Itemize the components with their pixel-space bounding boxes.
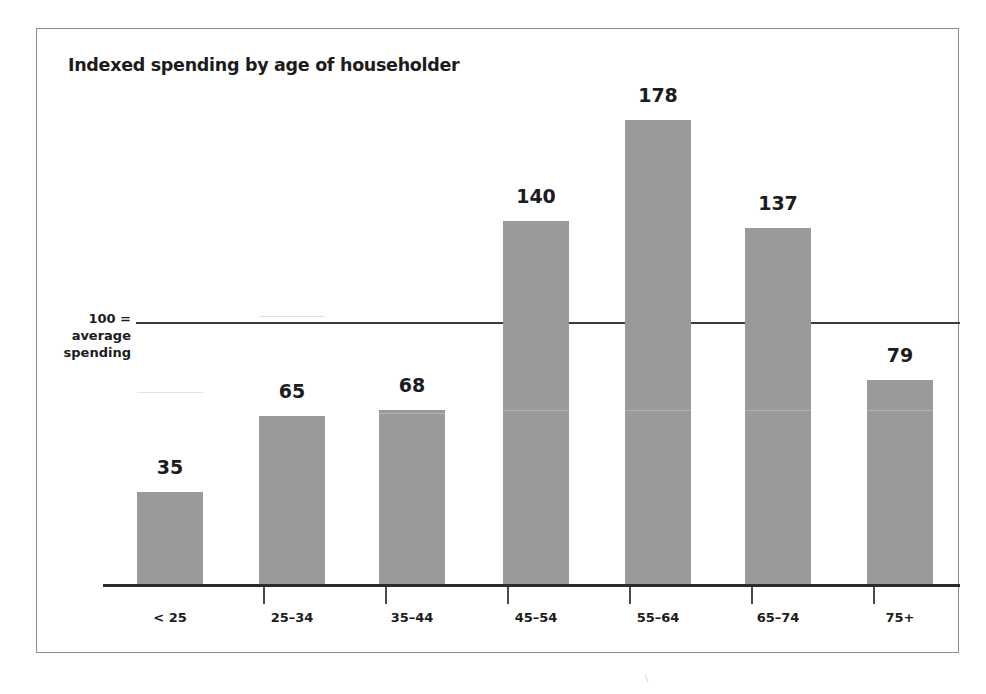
- bar-value-label: 79: [850, 344, 950, 366]
- axis-tick: [263, 587, 265, 604]
- reference-line-label: 100 = average spending: [45, 310, 131, 361]
- bar-seam: [503, 410, 569, 411]
- bar-seam: [867, 410, 933, 411]
- bar[interactable]: [137, 492, 203, 584]
- x-axis-tick-label: < 25: [110, 610, 230, 625]
- bar-value-label: 68: [362, 374, 462, 396]
- chart-figure: Indexed spending by age of householder 1…: [36, 28, 959, 653]
- x-axis-line: [103, 584, 960, 587]
- bar-value-label: 178: [608, 84, 708, 106]
- axis-tick: [751, 587, 753, 604]
- bar[interactable]: [379, 410, 445, 584]
- bar-seam: [745, 410, 811, 411]
- page-scan-artifact: \: [645, 672, 648, 684]
- bar[interactable]: [625, 120, 691, 584]
- axis-tick: [873, 587, 875, 604]
- plot-area: 100 = average spending 35 65 68 140: [37, 29, 960, 654]
- bar-seam: [625, 410, 691, 411]
- bar[interactable]: [867, 380, 933, 584]
- bar-value-label: 137: [728, 192, 828, 214]
- x-axis-tick-label: 25–34: [232, 610, 352, 625]
- x-axis-tick-label: 45–54: [476, 610, 596, 625]
- reference-label-line-3: spending: [45, 344, 131, 361]
- x-axis-tick-label: 55–64: [598, 610, 718, 625]
- axis-tick: [507, 587, 509, 604]
- x-axis-tick-label: 75+: [840, 610, 960, 625]
- x-axis-tick-label: 35–44: [352, 610, 472, 625]
- bar-value-label: 35: [120, 456, 220, 478]
- axis-tick: [385, 587, 387, 604]
- axis-tick: [629, 587, 631, 604]
- x-axis-tick-label: 65–74: [718, 610, 838, 625]
- bar[interactable]: [259, 416, 325, 584]
- reference-label-line-2: average: [45, 327, 131, 344]
- bar-value-label: 140: [486, 185, 586, 207]
- reference-label-line-1: 100 =: [45, 310, 131, 327]
- bar[interactable]: [745, 228, 811, 584]
- bar-seam: [379, 413, 445, 414]
- bar-seam: [259, 316, 325, 317]
- bar-seam: [137, 392, 203, 393]
- bar-value-label: 65: [242, 380, 342, 402]
- bar[interactable]: [503, 221, 569, 584]
